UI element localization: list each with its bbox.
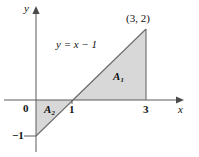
region-a1-label: A1 [113,71,124,82]
region-a2-subscript: 2 [52,109,55,116]
region-a2-label: A2 [44,104,55,115]
region-a2-base: A [44,103,51,115]
y-axis-arrowhead [32,6,39,14]
point-coordinate-label: (3, 2) [126,13,150,24]
region-a1-base: A [113,70,120,82]
origin-label: 0 [23,103,29,114]
x-axis-label: x [178,104,183,115]
region-a1-subscript: 1 [121,76,124,83]
x-tick-label-1: 1 [69,104,75,115]
coordinate-plane-svg [0,0,199,157]
equation-label: y = x − 1 [56,39,97,50]
y-axis-label: y [24,3,29,14]
x-tick-label-3: 3 [143,104,149,115]
figure-canvas: y x (3, 2) y = x − 1 A1 A2 0 1 3 −1 [0,0,199,157]
y-tick-label-neg1: −1 [12,130,24,141]
